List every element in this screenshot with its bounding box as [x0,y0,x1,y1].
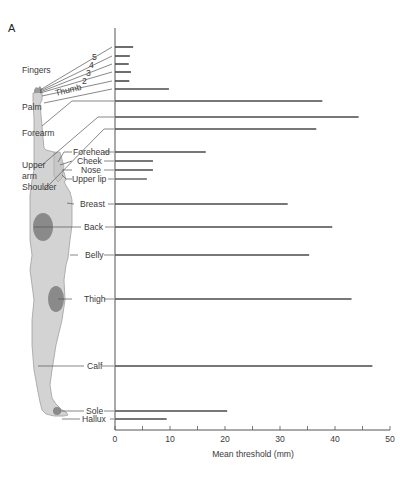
x-axis-title: Mean threshold (mm) [212,449,294,459]
label-calf: Calf [87,361,103,371]
label-belly: Belly [85,250,104,260]
x-tick-label: 50 [385,434,395,444]
x-axis-ticks [115,426,390,430]
label-hallux: Hallux [82,414,107,424]
label-palm: Palm [22,102,42,112]
threshold-bars [115,47,372,419]
axes [115,28,390,430]
x-tick-label: 40 [330,434,340,444]
label-upper-arm-2: arm [22,171,37,181]
x-tick-label: 20 [220,434,230,444]
label-finger-2: 2 [82,76,87,86]
two-point-threshold-figure: A [0,0,413,483]
label-upper-arm-1: Upper [22,160,46,170]
label-fingers: Fingers [22,65,51,75]
sole-patch [53,407,61,415]
label-thigh: Thigh [84,294,106,304]
label-breast: Breast [80,199,105,209]
x-axis-tick-labels: 01020304050 [113,434,395,444]
label-shoulder: Shoulder [22,182,57,192]
x-tick-label: 10 [165,434,175,444]
panel-label: A [8,22,16,34]
x-tick-label: 0 [113,434,118,444]
label-back: Back [84,222,104,232]
label-thumb: Thumb [54,82,83,98]
label-upper-lip: Upper lip [72,174,107,184]
x-tick-label: 30 [275,434,285,444]
label-forearm: Forearm [22,128,54,138]
